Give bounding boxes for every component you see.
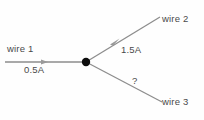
wire-1-name-label: wire 1 — [7, 43, 34, 54]
wire-3-line — [86, 62, 162, 102]
circuit-junction-diagram: wire 1 0.5A wire 2 1.5A wire 3 ? — [0, 0, 204, 120]
wire-2-line — [86, 17, 160, 62]
wire-3-current-label: ? — [132, 75, 137, 86]
wire-2-current-label: 1.5A — [121, 44, 141, 55]
wire-1-current-label: 0.5A — [24, 64, 44, 75]
junction-node — [82, 58, 90, 66]
wire-3-name-label: wire 3 — [162, 96, 189, 107]
wire-2-name-label: wire 2 — [162, 13, 189, 24]
